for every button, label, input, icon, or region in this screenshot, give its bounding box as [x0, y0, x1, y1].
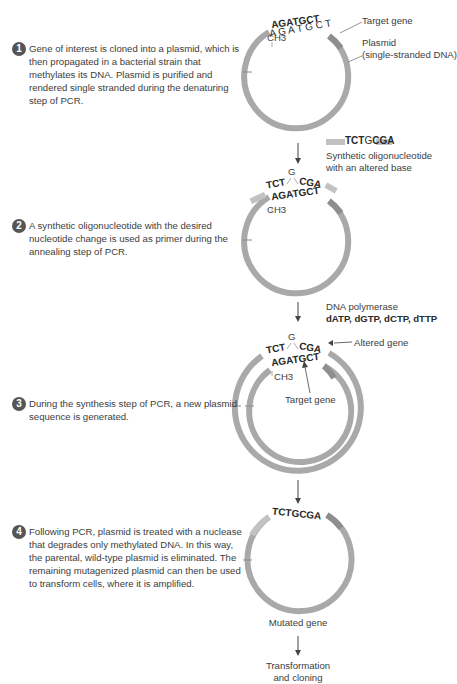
oligo-seq-right: CGA — [372, 135, 394, 146]
step-number-badge: 1 — [12, 42, 26, 56]
step-number-badge: 3 — [12, 397, 26, 411]
altered-base-2: G — [288, 166, 295, 178]
target-gene-label: Target gene — [362, 15, 413, 27]
altered-gene-label: Altered gene — [354, 337, 408, 349]
plasmid-ring-4 — [243, 515, 351, 611]
target-gene-inner-label: Target gene — [285, 394, 336, 406]
plasmid-label: Plasmid — [362, 37, 396, 49]
plasmid-ring-1: A G A T G C T — [243, 17, 362, 128]
polymerase-label: DNA polymerase — [326, 301, 398, 313]
methyl-group-2: CH3 — [267, 204, 286, 216]
dntps-label: dATP, dGTP, dCTP, dTTP — [326, 313, 437, 325]
plasmid-sublabel: (single-stranded DNA) — [362, 49, 457, 61]
oligo-desc-1: Synthetic oligonucleotide — [326, 150, 432, 162]
methyl-label: CH3 — [267, 32, 286, 43]
methyl-group-1: CH3 — [267, 32, 286, 44]
transformation-label-1: Transformation — [248, 660, 348, 672]
oligo-sequence: TCTGCGA — [345, 135, 394, 147]
step-number-badge: 2 — [12, 219, 26, 233]
step-text: During the synthesis step of PCR, a new … — [29, 397, 249, 423]
mutated-gene-label: Mutated gene — [248, 617, 348, 629]
step-text: A synthetic oligonucleotide with the des… — [29, 219, 249, 258]
transformation-label-2: and cloning — [248, 672, 348, 684]
altered-base-3: G — [288, 331, 295, 343]
oligo-seq-left: TCT — [345, 135, 364, 146]
step-text: Following PCR, plasmid is treated with a… — [29, 525, 249, 590]
methyl-group-3: CH3 — [274, 371, 293, 383]
step-text: Gene of interest is cloned into a plasmi… — [29, 42, 249, 107]
step-number-badge: 4 — [12, 525, 26, 539]
oligo-desc-2: with an altered base — [326, 162, 412, 174]
